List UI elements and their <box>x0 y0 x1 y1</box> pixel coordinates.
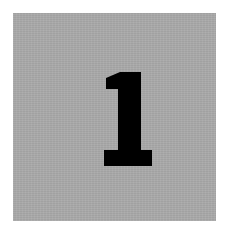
numeral-one-glyph: 1 <box>103 71 153 167</box>
number-tile: 1 <box>13 13 216 221</box>
numeral-text: 1 <box>103 167 104 168</box>
digit-one-icon <box>103 71 153 167</box>
